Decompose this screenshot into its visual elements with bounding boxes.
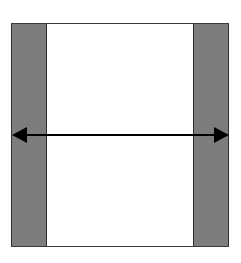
double-headed-arrow-icon	[0, 0, 241, 263]
